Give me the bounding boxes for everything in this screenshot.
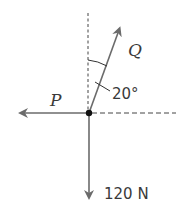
point-of-application — [86, 110, 92, 116]
label-angle: 20° — [112, 85, 139, 103]
label-p: P — [49, 90, 62, 110]
angle-arc — [88, 60, 107, 66]
label-weight: 120 N — [104, 185, 149, 203]
label-q: Q — [128, 40, 142, 60]
force-diagram: Q 20° P 120 N — [0, 0, 183, 210]
